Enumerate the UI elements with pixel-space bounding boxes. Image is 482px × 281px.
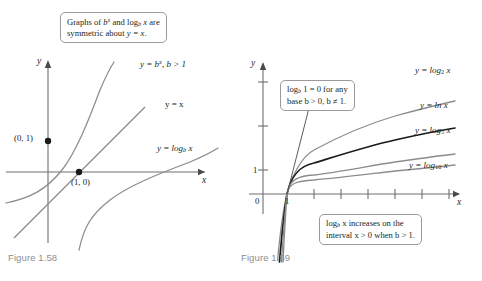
callout-log-post: 1 = 0 for any — [301, 84, 348, 94]
y-axis-arrowhead — [260, 62, 266, 70]
figure-1-58-panel: Graphs of bx and logb x are symmetric ab… — [0, 0, 241, 281]
y-tick-label-1: 1 — [253, 165, 257, 175]
callout-text-pre: Graphs of — [67, 17, 103, 27]
label-curve-log5: y = log5 x — [415, 125, 450, 135]
callout-symmetry: Graphs of bx and logb x are symmetric ab… — [60, 12, 167, 43]
callout-line2-pre: symmetric about — [67, 28, 127, 38]
callout-increasing-line-2: interval x > 0 when b > 1. — [326, 230, 415, 241]
label-log-arg: x — [186, 143, 192, 153]
label-exponential-curve: y = bx, b > 1 — [140, 58, 186, 69]
callout-log-pre: log — [287, 84, 298, 94]
callout-line2-post: . — [144, 28, 146, 38]
label-curve-ln: y = ln x — [420, 100, 448, 110]
label-log5-lhs: y = log — [415, 125, 441, 135]
callout-increasing-line-1: logb x increases on the — [326, 218, 415, 230]
point-label-y-intercept: (0, 1) — [14, 133, 33, 143]
x-tick-label-0: 0 — [255, 196, 259, 206]
label-exp-condition: , b > 1 — [162, 59, 186, 69]
y-axis-arrowhead — [45, 60, 51, 68]
label-curve-log10: y = log10 x — [409, 160, 448, 170]
callout-symmetry-line-1: Graphs of bx and logb x are — [67, 16, 160, 28]
label-log2-lhs: y = log — [415, 65, 441, 75]
y-axis-label: y — [37, 56, 41, 66]
figure-1-59-panel: logb 1 = 0 for any base b > 0, b ≠ 1. lo… — [241, 0, 482, 281]
x-tick-label-1: 1 — [285, 196, 289, 206]
x-axis-label: x — [457, 197, 461, 207]
callout-text-post: are — [147, 17, 160, 27]
label-ln-lhs: y = ln — [420, 100, 442, 110]
label-logarithm-curve: y = logb x — [157, 143, 192, 153]
callout-text-mid: and log — [110, 17, 138, 27]
callout-line2-eq: y = x — [127, 28, 145, 38]
label-curve-log2: y = log2 x — [415, 65, 450, 75]
point-label-x-intercept: (1, 0) — [71, 177, 90, 187]
label-identity-curve: y = x — [165, 99, 184, 109]
callout-symmetry-line-2: symmetric about y = x. — [67, 28, 160, 39]
callout-inc-post: x increases on the — [340, 218, 403, 228]
label-log2-arg: x — [444, 65, 450, 75]
x-axis-label: x — [202, 175, 206, 185]
point-x-intercept — [76, 169, 82, 175]
callout-log-identity-line-2: base b > 0, b ≠ 1. — [287, 96, 348, 107]
label-log10-lhs: y = log — [409, 160, 435, 170]
curve-logarithm — [79, 148, 218, 250]
label-log5-arg: x — [444, 125, 450, 135]
label-log10-arg: x — [441, 160, 447, 170]
callout-inc-pre: log — [326, 218, 337, 228]
callout-log-identity: logb 1 = 0 for any base b > 0, b ≠ 1. — [280, 80, 355, 111]
point-y-intercept — [45, 138, 51, 144]
label-ln-arg: x — [442, 100, 448, 110]
callout-log-identity-line-1: logb 1 = 0 for any — [287, 84, 348, 96]
figure-caption-right: Figure 1.59 — [241, 252, 290, 263]
label-log-lhs: y = log — [157, 143, 183, 153]
label-exp-lhs: y = — [140, 59, 155, 69]
y-axis-label: y — [251, 58, 255, 68]
figure-caption-left: Figure 1.58 — [8, 252, 57, 263]
callout-increasing: logb x increases on the interval x > 0 w… — [319, 214, 422, 245]
